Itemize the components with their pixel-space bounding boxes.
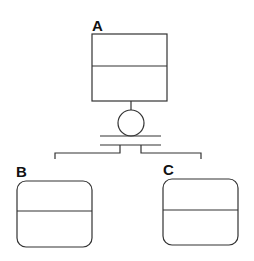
node-a-box	[92, 34, 167, 101]
junction-circle-icon	[118, 110, 144, 136]
node-c-box	[163, 179, 238, 245]
node-a-label: A	[92, 18, 103, 33]
node-c-label: C	[163, 162, 174, 177]
node-b-box	[17, 181, 92, 247]
node-b-label: B	[16, 164, 27, 179]
branch-to-b	[55, 145, 120, 159]
branch-to-c	[141, 145, 201, 159]
diagram-canvas	[0, 0, 254, 261]
